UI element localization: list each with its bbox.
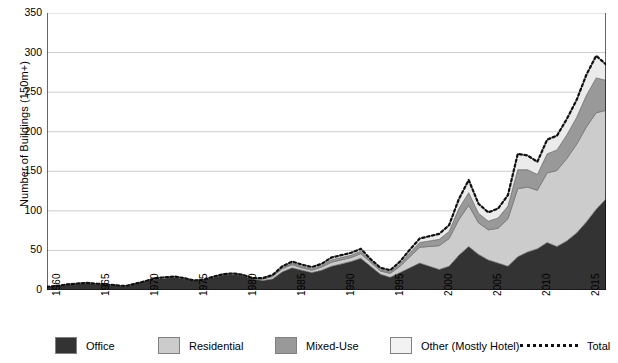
x-axis-tick-label: 2000: [443, 273, 454, 296]
y-axis-ticks: 050100150200250300350: [0, 0, 42, 300]
chart-root: Number of Buildings (150m+) 050100150200…: [0, 0, 618, 363]
legend-label: Total: [587, 340, 610, 352]
y-axis-tick-label: 100: [8, 205, 42, 216]
x-axis-tick-label: 1965: [100, 273, 111, 296]
legend-label: Other (Mostly Hotel): [421, 340, 519, 352]
x-axis-tick-label: 1975: [198, 273, 209, 296]
legend-label: Residential: [189, 340, 243, 352]
legend-label: Office: [86, 340, 115, 352]
chart-legend: OfficeResidentialMixed-UseOther (Mostly …: [0, 328, 618, 363]
legend-swatch-icon: [55, 337, 77, 354]
legend-label: Mixed-Use: [306, 340, 359, 352]
y-axis-tick-label: 350: [8, 7, 42, 18]
y-axis-tick-label: 300: [8, 47, 42, 58]
legend-item-office[interactable]: Office: [55, 337, 115, 354]
x-axis-tick-label: 1960: [51, 273, 62, 296]
x-axis-tick-label: 1970: [149, 273, 160, 296]
legend-item-mixed-use[interactable]: Mixed-Use: [275, 337, 359, 354]
x-axis-tick-label: 1985: [296, 273, 307, 296]
x-axis-tick-label: 1980: [247, 273, 258, 296]
y-axis-tick-label: 150: [8, 165, 42, 176]
x-axis-tick-label: 1990: [345, 273, 356, 296]
x-axis-tick-label: 2010: [541, 273, 552, 296]
x-axis-tick-label: 2015: [590, 273, 601, 296]
y-axis-tick-label: 0: [8, 284, 42, 295]
legend-swatch-icon: [275, 337, 297, 354]
legend-item-other-mostly-hotel[interactable]: Other (Mostly Hotel): [390, 337, 519, 354]
x-axis-tick-label: 2005: [492, 273, 503, 296]
y-axis-tick-label: 50: [8, 244, 42, 255]
x-axis-tick-label: 1995: [394, 273, 405, 296]
legend-item-total[interactable]: Total: [520, 340, 610, 352]
legend-swatch-icon: [390, 337, 412, 354]
legend-item-residential[interactable]: Residential: [158, 337, 243, 354]
y-axis-tick-label: 200: [8, 126, 42, 137]
y-axis-tick-label: 250: [8, 86, 42, 97]
plot-area: [47, 13, 606, 290]
legend-dotted-line-icon: [520, 344, 578, 347]
legend-swatch-icon: [158, 337, 180, 354]
stacked-area-chart-svg: [47, 13, 606, 290]
